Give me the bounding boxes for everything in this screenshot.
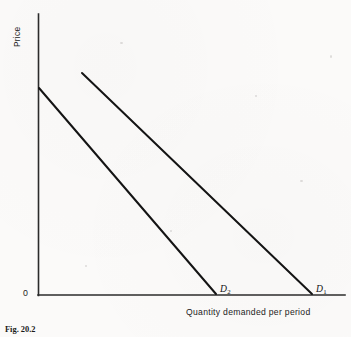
demand-curve-chart xyxy=(0,0,351,337)
figure-container: Price Quantity demanded per period 0 D2 … xyxy=(0,0,351,337)
curve-label-d1: D1 xyxy=(316,283,326,294)
curve-label-d1-subscript: 1 xyxy=(323,288,326,295)
curve-label-d2: D2 xyxy=(220,283,230,294)
curve-label-d2-letter: D xyxy=(220,283,227,294)
figure-caption: Fig. 20.2 xyxy=(5,325,35,334)
y-axis-label: Price xyxy=(12,0,22,47)
demand-curve-d1 xyxy=(82,73,312,294)
demand-curve-d2 xyxy=(39,88,216,294)
curve-label-d2-subscript: 2 xyxy=(227,288,230,295)
curve-label-d1-letter: D xyxy=(316,283,323,294)
origin-label: 0 xyxy=(23,288,28,298)
x-axis-label: Quantity demanded per period xyxy=(186,307,311,317)
